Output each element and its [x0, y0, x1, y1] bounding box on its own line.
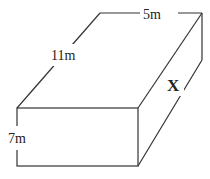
height-label: 7m [8, 131, 26, 146]
prism-diagram: 5m 11m 7m X [0, 0, 210, 179]
width-label: 5m [143, 7, 161, 22]
length-label: 11m [51, 48, 75, 63]
front-face [17, 108, 138, 166]
unknown-side-label: X [167, 76, 180, 95]
